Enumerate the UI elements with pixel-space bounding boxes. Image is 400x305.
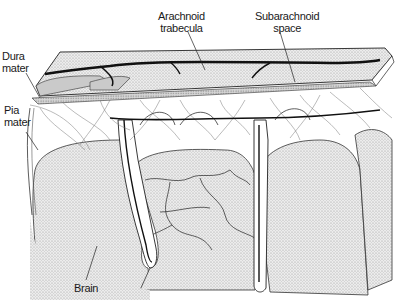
- label-dura-mater-line2: mater: [2, 62, 29, 74]
- label-subarachnoid-space-line2: space: [255, 22, 319, 34]
- label-arachnoid-trabecula: Arachnoid trabecula: [158, 10, 205, 34]
- label-dura-mater: Dura mater: [2, 50, 29, 74]
- label-dura-mater-line1: Dura: [2, 50, 29, 62]
- label-pia-mater-line2: mater: [4, 116, 31, 128]
- label-subarachnoid-space: Subarachnoid space: [255, 10, 319, 34]
- label-subarachnoid-space-line1: Subarachnoid: [255, 10, 319, 22]
- label-pia-mater: Pia mater: [4, 104, 31, 128]
- brain-gyri: [30, 130, 392, 300]
- label-arachnoid-trabecula-line2: trabecula: [158, 22, 205, 34]
- label-arachnoid-trabecula-line1: Arachnoid: [158, 10, 205, 22]
- label-pia-mater-line1: Pia: [4, 104, 31, 116]
- dura-mater-layer: [36, 48, 394, 96]
- meninges-illustration: [0, 0, 400, 305]
- label-brain-line1: Brain: [74, 282, 98, 294]
- label-brain: Brain: [74, 282, 98, 294]
